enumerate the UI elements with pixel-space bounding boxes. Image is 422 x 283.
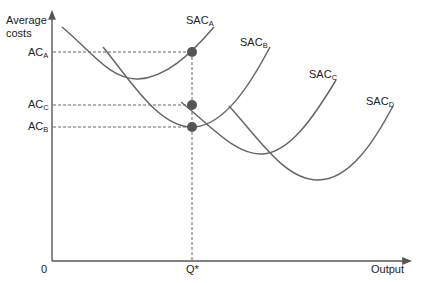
guide-lines <box>53 52 192 261</box>
q-star-label: Q* <box>186 263 200 275</box>
sac-curves <box>62 27 393 180</box>
point-ac-b <box>187 122 197 132</box>
sac-c-label: SACC <box>309 68 338 82</box>
sac-d-label: SACD <box>366 95 395 109</box>
sac-b-label: SACB <box>240 36 268 50</box>
point-ac-c <box>187 100 197 110</box>
y-axis-label-line2: costs <box>6 27 32 39</box>
sac-a-label: SACA <box>186 14 214 28</box>
sac-b-curve <box>103 47 270 127</box>
ac-c-label: ACC <box>28 98 49 112</box>
point-ac-a <box>187 47 197 57</box>
ac-b-label: ACB <box>28 120 48 134</box>
y-axis-label-line1: Average <box>6 14 47 26</box>
origin-label: 0 <box>41 263 47 275</box>
x-axis-label: Output <box>371 263 404 275</box>
sac-c-curve <box>181 80 336 154</box>
short-run-average-cost-diagram: Average costs 0 Q* Output ACA ACC ACB SA… <box>0 0 422 283</box>
ac-a-label: ACA <box>28 46 48 60</box>
